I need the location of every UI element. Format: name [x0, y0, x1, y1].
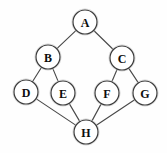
graph-edge-f-h [91, 103, 101, 122]
node-label-f: F [103, 87, 110, 101]
graph-node-d[interactable]: D [13, 79, 39, 105]
graph-canvas: ABCDEFGH [0, 0, 167, 153]
graph-edge-b-d [32, 67, 42, 83]
graph-edge-c-g [128, 68, 138, 84]
graph-node-b[interactable]: B [35, 44, 61, 70]
graph-node-e[interactable]: E [50, 80, 76, 106]
graph-edge-a-c [93, 30, 114, 50]
graph-edge-e-h [69, 103, 80, 122]
graph-node-c[interactable]: C [109, 45, 135, 71]
graph-edge-c-f [112, 69, 118, 83]
graph-node-g[interactable]: G [132, 80, 158, 106]
node-label-e: E [59, 87, 67, 101]
node-label-b: B [44, 51, 52, 65]
graph-edge-a-b [56, 30, 76, 49]
graph-edge-b-e [52, 68, 58, 83]
graph-node-a[interactable]: A [72, 9, 98, 35]
node-label-a: A [81, 16, 90, 30]
node-label-h: H [81, 126, 91, 140]
node-label-c: C [118, 52, 127, 66]
node-label-d: D [22, 86, 31, 100]
graph-figure: ABCDEFGH [0, 0, 167, 153]
node-layer: ABCDEFGH [13, 9, 158, 145]
edge-layer [32, 30, 139, 126]
graph-node-h[interactable]: H [73, 119, 99, 145]
graph-node-f[interactable]: F [94, 80, 120, 106]
node-label-g: G [140, 87, 149, 101]
